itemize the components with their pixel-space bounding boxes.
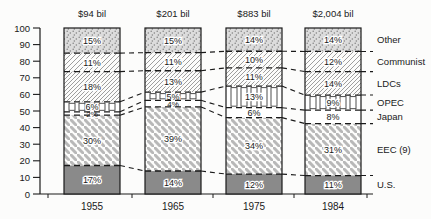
boundary-connector (120, 165, 145, 170)
boundary-connector (282, 108, 305, 110)
opec-block (310, 97, 316, 109)
y-tick-label: 40 (19, 122, 30, 133)
value-label-1975-japan: 6% (247, 108, 260, 118)
boundary-connector (282, 174, 305, 175)
column-header-1965: $201 bil (156, 8, 189, 19)
y-tick-label: 70 (19, 72, 30, 83)
value-label-1965-eec-9: 39% (164, 134, 182, 144)
value-label-1984-ldcs: 14% (324, 79, 342, 89)
value-label-1965-u-s: 14% (164, 178, 182, 188)
boundary-connector (282, 118, 305, 124)
boundary-connector (201, 68, 226, 71)
opec-block (340, 97, 346, 109)
boundary-connector (201, 107, 226, 118)
value-label-1975-eec-9: 34% (245, 141, 263, 151)
value-label-1965-communist: 11% (164, 57, 181, 67)
value-label-1955-u-s: 17% (83, 175, 101, 185)
value-label-1955-eec-9: 30% (83, 136, 101, 146)
opec-block (271, 88, 277, 107)
value-label-1975-other: 14% (245, 35, 263, 45)
boundary-connector (282, 68, 305, 72)
x-category-label-1955: 1955 (81, 201, 104, 212)
x-category-label-1975: 1975 (243, 201, 266, 212)
legend-label-japan: Japan (377, 111, 403, 122)
value-label-1955-opec: 6% (85, 102, 98, 112)
y-tick-label: 0 (25, 189, 30, 200)
opec-block (160, 94, 166, 99)
x-category-label-1984: 1984 (322, 201, 345, 212)
legend-label-ldcs: LDCs (377, 78, 401, 89)
column-header-1975: $883 bil (237, 8, 270, 19)
y-tick-label: 100 (14, 23, 30, 34)
y-tick-label: 20 (19, 155, 30, 166)
value-label-1955-ldcs: 18% (83, 82, 101, 92)
y-tick-label: 60 (19, 89, 30, 100)
value-label-1955-other: 15% (83, 36, 101, 46)
value-label-1955-communist: 11% (83, 58, 100, 68)
legend-label-eec-9: EEC (9) (377, 144, 411, 155)
value-label-1975-opec: 13% (245, 92, 263, 102)
y-tick-label: 10 (19, 172, 30, 183)
stacked-bar-chart: 010203040506070809010017%30%2%6%18%11%15… (0, 0, 431, 219)
chart-canvas: 010203040506070809010017%30%2%6%18%11%15… (0, 0, 431, 219)
value-label-1984-communist: 12% (324, 57, 342, 67)
y-tick-label: 90 (19, 39, 30, 50)
x-category-label-1965: 1965 (162, 201, 185, 212)
boundary-connector (120, 71, 145, 72)
value-label-1984-eec-9: 31% (324, 145, 342, 155)
value-label-1965-other: 15% (164, 36, 182, 46)
y-tick-label: 80 (19, 56, 30, 67)
boundary-connector (120, 107, 145, 115)
legend-label-u-s: U.S. (377, 179, 395, 190)
opec-block (231, 88, 237, 107)
opec-block (109, 103, 115, 110)
y-tick-label: 50 (19, 106, 30, 117)
boundary-connector (120, 92, 145, 102)
legend-label-opec: OPEC (377, 97, 404, 108)
column-header-1955: $94 bil (78, 8, 106, 19)
y-tick-label: 30 (19, 139, 30, 150)
opec-block (150, 94, 156, 99)
legend-label-other: Other (377, 34, 401, 45)
opec-block (79, 103, 85, 110)
opec-block (350, 97, 356, 109)
value-label-1975-communist: 10% (245, 55, 263, 65)
value-label-1984-japan: 8% (326, 112, 339, 122)
boundary-connector (282, 86, 305, 95)
column-header-1984: $2,004 bil (312, 8, 353, 19)
value-label-1984-opec: 9% (326, 98, 339, 108)
opec-block (190, 94, 196, 99)
opec-block (320, 97, 326, 109)
boundary-connector (120, 100, 145, 112)
boundary-connector (201, 86, 226, 92)
boundary-connector (201, 100, 226, 107)
value-label-1975-u-s: 12% (245, 180, 263, 190)
opec-block (69, 103, 75, 110)
opec-block (180, 94, 186, 99)
boundary-connector (201, 171, 226, 174)
opec-block (99, 103, 105, 110)
legend-label-communist: Communist (377, 56, 425, 67)
value-label-1965-ldcs: 13% (164, 77, 182, 87)
boundary-connector (201, 51, 226, 52)
value-label-1975-ldcs: 11% (245, 72, 262, 82)
value-label-1984-other: 14% (324, 35, 342, 45)
value-label-1984-u-s: 11% (324, 180, 341, 190)
